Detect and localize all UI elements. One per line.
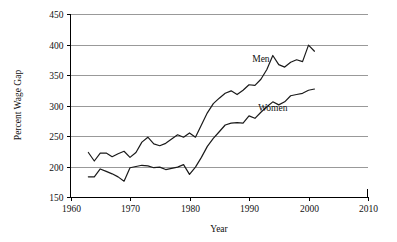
- y-tick-label-250: 250: [49, 132, 64, 142]
- y-tick-label-400: 400: [49, 41, 64, 51]
- series-label-women: Women: [258, 103, 288, 113]
- y-tick-label-350: 350: [49, 71, 64, 81]
- x-tick-labels-group: 196019701980199020002010: [62, 204, 378, 214]
- x-tick-label-2000: 2000: [300, 204, 319, 214]
- x-tick-label-2010: 2010: [359, 204, 378, 214]
- y-tick-marks-group: [67, 15, 71, 198]
- x-tick-label-1990: 1990: [240, 204, 259, 214]
- y-tick-labels-group: 150200250300350400450: [49, 10, 64, 203]
- x-tick-label-1970: 1970: [121, 204, 140, 214]
- wage-gap-line-chart: 150200250300350400450 196019701980199020…: [0, 0, 397, 242]
- gridlines-group: [71, 15, 369, 168]
- chart-canvas: 150200250300350400450 196019701980199020…: [0, 0, 397, 242]
- x-axis-title: Year: [210, 224, 228, 234]
- y-tick-label-450: 450: [49, 10, 64, 20]
- x-tick-label-1960: 1960: [62, 204, 81, 214]
- y-axis-title: Percent Wage Gap: [13, 70, 23, 141]
- y-tick-label-150: 150: [49, 193, 64, 203]
- x-tick-label-1980: 1980: [181, 204, 200, 214]
- y-tick-label-300: 300: [49, 102, 64, 112]
- y-tick-label-200: 200: [49, 163, 64, 173]
- series-label-men: Men: [252, 54, 270, 64]
